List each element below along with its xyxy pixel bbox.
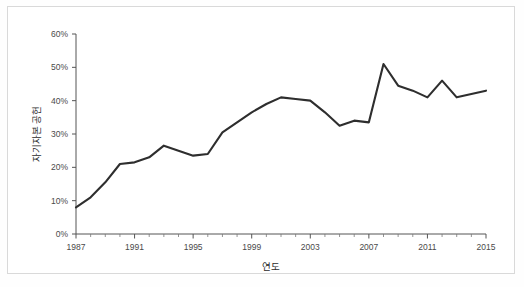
figure-root: 0% 10% 20% 30% 40% 50% 60% [0,0,524,287]
x-tick-label-1999: 1999 [242,242,261,252]
y-tick-marks [72,34,76,234]
data-series-line [76,64,486,207]
x-axis-title: 연도 [262,261,280,272]
y-tick-label-10: 10% [51,196,68,206]
x-tick-label-1987: 1987 [67,242,86,252]
y-tick-label-60: 60% [51,29,68,39]
x-tick-label-1991: 1991 [125,242,144,252]
line-chart: 0% 10% 20% 30% 40% 50% 60% [0,0,524,287]
y-tick-label-20: 20% [51,162,68,172]
x-tick-label-2015: 2015 [477,242,496,252]
y-tick-label-50: 50% [51,62,68,72]
x-tick-label-2011: 2011 [418,242,437,252]
y-tick-label-40: 40% [51,96,68,106]
x-tick-label-2007: 2007 [359,242,378,252]
x-tick-label-1995: 1995 [184,242,203,252]
y-tick-label-30: 30% [51,129,68,139]
x-tick-label-2003: 2003 [301,242,320,252]
y-tick-label-0: 0% [56,229,69,239]
y-axis-title: 자기자본 공헌 [31,106,42,163]
